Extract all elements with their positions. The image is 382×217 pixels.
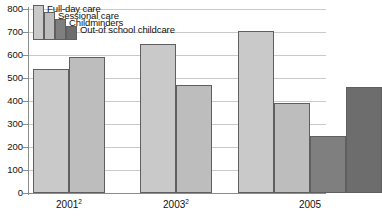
legend-swatch xyxy=(66,26,77,40)
bar xyxy=(346,87,382,193)
y-axis-tick-label: 700 xyxy=(0,27,23,37)
bar xyxy=(69,57,105,193)
y-axis-tick-label: 400 xyxy=(0,96,23,106)
x-axis-line xyxy=(28,193,326,194)
y-axis-tick-label: 100 xyxy=(0,165,23,175)
y-axis-tick-label: 200 xyxy=(0,142,23,152)
legend-swatch xyxy=(33,5,44,40)
y-axis-tick-label: 300 xyxy=(0,119,23,129)
x-axis-label-footnote-marker: 2 xyxy=(185,198,189,205)
bar xyxy=(140,44,176,194)
bar xyxy=(33,69,69,193)
bar xyxy=(238,31,274,193)
legend-swatch xyxy=(55,19,66,40)
y-axis-tick-label: 500 xyxy=(0,73,23,83)
x-axis-category-label: 2005 xyxy=(280,199,340,210)
y-axis-tick-label: 0 xyxy=(0,188,23,198)
legend-label: Out-of school childcare xyxy=(80,25,175,35)
y-axis-tick-label: 600 xyxy=(0,50,23,60)
x-axis-category-label: 20012 xyxy=(39,199,99,210)
bar xyxy=(176,85,212,193)
bar xyxy=(310,136,346,193)
y-axis-tick-label: 800 xyxy=(0,4,23,14)
legend-swatch xyxy=(44,12,55,40)
bar xyxy=(274,103,310,193)
x-axis-label-footnote-marker: 2 xyxy=(78,198,82,205)
x-axis-category-label: 20032 xyxy=(146,199,206,210)
